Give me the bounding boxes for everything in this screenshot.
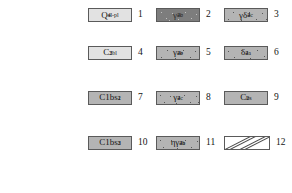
legend-number-1: 1 [136, 10, 143, 20]
legend-item-6[interactable]: δ24a 6 [224, 30, 292, 75]
legend-number-3: 3 [272, 10, 279, 20]
legend-number-2: 2 [204, 10, 211, 20]
legend-symbol-5: γ2b4e [173, 48, 183, 57]
legend-symbol-8: γ24c [173, 93, 183, 102]
legend-symbol-1: Qal-pl4 [101, 11, 119, 20]
legend-swatch-7: C1bs12 [88, 91, 132, 105]
legend-item-8[interactable]: γ24c 8 [156, 75, 224, 120]
legend-symbol-4: C32bl [103, 48, 117, 57]
legend-symbol-9: Cbs2 [240, 93, 251, 102]
legend-swatch-2: γ2b4c [156, 8, 200, 22]
legend-swatch-3: γδ24c [224, 8, 268, 22]
legend-number-4: 4 [136, 48, 143, 58]
diagonal-hatch-icon [225, 137, 269, 149]
legend-item-7[interactable]: C1bs12 7 [88, 75, 156, 120]
legend-swatch-5: γ2b4e [156, 46, 200, 60]
legend-symbol-10: C1bs32 [99, 138, 121, 147]
legend-item-4[interactable]: C32bl 4 [88, 30, 156, 75]
legend-symbol-6: δ24a [241, 48, 251, 57]
legend-symbol-2: γ2b4c [173, 11, 183, 20]
legend-number-6: 6 [272, 48, 279, 58]
legend-swatch-10: C1bs32 [88, 136, 132, 150]
legend-swatch-12 [224, 136, 270, 150]
legend-number-9: 9 [272, 93, 279, 103]
legend-item-11[interactable]: ηγ2b4a 11 [156, 120, 224, 165]
legend-swatch-1: Qal-pl4 [88, 8, 132, 22]
legend-swatch-6: δ24a [224, 46, 268, 60]
legend-item-3[interactable]: γδ24c 3 [224, 0, 292, 30]
legend-number-7: 7 [136, 93, 143, 103]
legend-item-1[interactable]: Qal-pl4 1 [88, 0, 156, 30]
legend-number-5: 5 [204, 48, 211, 58]
legend-item-10[interactable]: C1bs32 10 [88, 120, 156, 165]
legend-swatch-8: γ24c [156, 91, 200, 105]
legend-number-10: 10 [136, 138, 148, 148]
legend-grid: Qal-pl4 1 γ2b4c 2 [0, 0, 292, 193]
legend-item-12[interactable]: 12 [224, 120, 292, 165]
legend-item-9[interactable]: Cbs2 9 [224, 75, 292, 120]
legend-swatch-9: Cbs2 [224, 91, 268, 105]
legend-item-2[interactable]: γ2b4c 2 [156, 0, 224, 30]
legend-number-8: 8 [204, 93, 211, 103]
legend-number-12: 12 [274, 138, 286, 148]
legend-item-5[interactable]: γ2b4e 5 [156, 30, 224, 75]
legend-swatch-11: ηγ2b4a [156, 136, 200, 150]
legend-swatch-4: C32bl [88, 46, 132, 60]
legend-symbol-11: ηγ2b4a [171, 138, 186, 147]
legend-number-11: 11 [204, 138, 215, 148]
legend-symbol-3: γδ24c [239, 11, 253, 20]
legend-symbol-7: C1bs12 [99, 93, 121, 102]
